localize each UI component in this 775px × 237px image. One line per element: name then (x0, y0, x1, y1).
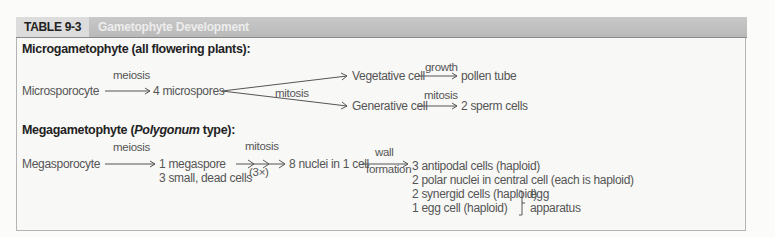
arrow-icon (362, 161, 408, 167)
arrow-icon (418, 103, 457, 109)
bracket-icon (519, 191, 525, 215)
arrow-layer (0, 0, 775, 237)
fork-arrow-icon (222, 73, 347, 109)
arrow-icon (105, 161, 155, 167)
arrow-icon (418, 73, 457, 79)
arrow-icon (105, 88, 150, 94)
triple-arrow-icon (236, 160, 285, 168)
